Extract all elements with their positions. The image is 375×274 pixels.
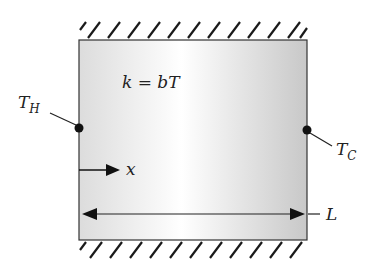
hot-leader-line	[50, 113, 76, 125]
cold-temperature-label: TC	[336, 139, 357, 163]
slab-diagram: k = bT TH TC x L	[0, 0, 375, 274]
bottom-wall-hatching	[80, 242, 302, 258]
conductivity-label: k = bT	[122, 72, 181, 92]
x-label: x	[126, 159, 136, 179]
top-wall-hatching	[80, 22, 307, 38]
slab	[79, 40, 307, 240]
hot-temperature-label: TH	[18, 92, 40, 116]
hot-node	[75, 124, 84, 133]
cold-leader-line	[310, 133, 332, 146]
length-label: L	[325, 204, 337, 224]
